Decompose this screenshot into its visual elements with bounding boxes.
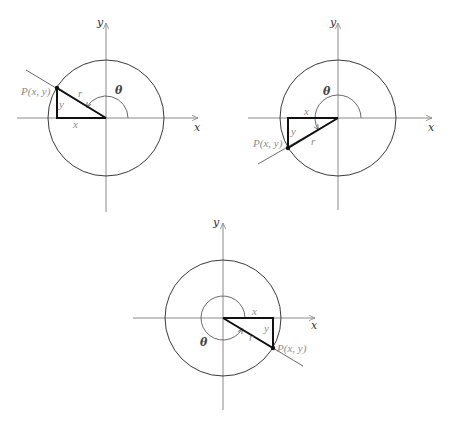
x-side-label: x — [72, 118, 78, 130]
terminal-point — [271, 346, 275, 350]
angle-label: θ — [115, 84, 123, 97]
angle-label: θ — [200, 336, 208, 349]
hypotenuse-label: r — [78, 87, 83, 99]
angle-arc-arrow-icon — [87, 96, 128, 118]
y-side-label: y — [263, 322, 269, 334]
y-side-label: y — [290, 125, 296, 137]
diagram-quadrant-iii: x y P(x, y) x y r θ — [248, 16, 435, 210]
trig-diagrams-canvas: x y P(x, y) x y r θ x y P(x, y) x y r θ … — [0, 0, 456, 432]
y-axis-label: y — [212, 216, 220, 229]
x-side-label: x — [303, 105, 309, 117]
hypotenuse-label: r — [311, 135, 316, 147]
terminal-point — [286, 146, 290, 150]
x-axis-label: x — [428, 121, 435, 134]
x-axis-label: x — [194, 121, 201, 134]
terminal-point — [55, 86, 59, 90]
y-axis-label: y — [96, 16, 104, 29]
point-label: P(x, y) — [20, 85, 51, 98]
diagram-quadrant-iv: x y P(x, y) x y r θ — [133, 216, 318, 410]
y-side-label: y — [58, 98, 64, 110]
x-side-label: x — [251, 305, 257, 317]
y-axis-label: y — [329, 16, 337, 29]
point-label: P(x, y) — [276, 342, 307, 355]
diagram-quadrant-ii: x y P(x, y) x y r θ — [17, 16, 201, 212]
point-label: P(x, y) — [252, 137, 283, 150]
hypotenuse-label: r — [249, 331, 254, 343]
angle-label: θ — [323, 85, 331, 98]
x-axis-label: x — [311, 319, 318, 332]
